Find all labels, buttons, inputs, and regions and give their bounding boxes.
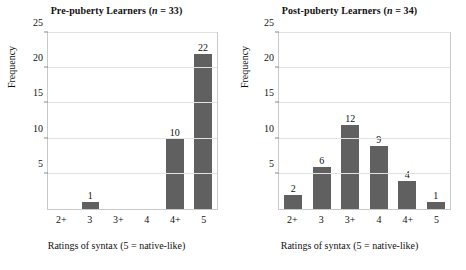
gridline — [279, 32, 450, 33]
gridline — [48, 173, 217, 174]
x-axis-ticks-left: 2+33+44+5 — [47, 214, 218, 225]
x-tick-label-4: 4 — [133, 214, 162, 225]
x-tick-label-5: 5 — [190, 214, 219, 225]
gridline — [48, 32, 217, 33]
bar-4[interactable] — [370, 146, 388, 209]
y-tick-mark — [275, 32, 279, 33]
bar-value-label: 22 — [189, 42, 217, 53]
bar-slot-2+[interactable]: 2 — [279, 33, 308, 209]
y-tick-label-20: 20 — [264, 52, 279, 63]
plot-area-right: 2612941 510152025 — [278, 32, 451, 210]
x-tick-label-4: 4 — [364, 214, 393, 225]
y-tick-label-20: 20 — [33, 52, 48, 63]
two-panel-bar-chart-figure: Pre-puberty Learners (n = 33) Frequency … — [0, 0, 466, 270]
gridline — [279, 138, 450, 139]
y-tick-mark — [44, 67, 48, 68]
bar-slot-3[interactable]: 6 — [308, 33, 337, 209]
bar-5[interactable] — [194, 54, 211, 209]
chart-panel-pre-puberty: Pre-puberty Learners (n = 33) Frequency … — [0, 0, 233, 270]
x-tick-label-4+: 4+ — [161, 214, 190, 225]
bar-3[interactable] — [82, 202, 99, 209]
bar-value-label: 12 — [336, 113, 365, 124]
bar-slot-4[interactable]: 9 — [365, 33, 394, 209]
y-tick-label-25: 25 — [264, 17, 279, 28]
gridline — [279, 173, 450, 174]
gridline — [48, 102, 217, 103]
bar-slot-4[interactable] — [133, 33, 161, 209]
panel-title-prefix: Post-puberty Learners ( — [282, 5, 387, 16]
y-tick-label-5: 5 — [269, 157, 279, 168]
y-tick-mark — [44, 137, 48, 138]
bar-value-label: 10 — [161, 127, 189, 138]
bar-slot-4+[interactable]: 10 — [161, 33, 189, 209]
y-tick-mark — [44, 172, 48, 173]
bar-slot-3+[interactable] — [104, 33, 132, 209]
bar-value-label: 4 — [393, 169, 422, 180]
bar-group-right: 2612941 — [279, 33, 450, 209]
y-axis-label-left: Frequency — [6, 22, 17, 112]
x-tick-label-2+: 2+ — [47, 214, 76, 225]
bar-value-label: 6 — [308, 155, 337, 166]
panel-title-suffix: = 33) — [158, 5, 183, 16]
gridline — [48, 67, 217, 68]
chart-panel-post-puberty: Post-puberty Learners (n = 34) Frequency… — [233, 0, 466, 270]
x-tick-label-5: 5 — [422, 214, 451, 225]
bar-slot-3+[interactable]: 12 — [336, 33, 365, 209]
y-tick-mark — [275, 172, 279, 173]
x-tick-label-3: 3 — [307, 214, 336, 225]
x-tick-label-3: 3 — [76, 214, 105, 225]
bar-5[interactable] — [427, 202, 445, 209]
x-axis-ticks-right: 2+33+44+5 — [278, 214, 451, 225]
y-tick-label-10: 10 — [33, 122, 48, 133]
gridline — [279, 67, 450, 68]
y-tick-mark — [275, 102, 279, 103]
x-axis-label-right: Ratings of syntax (5 = native-like) — [233, 240, 466, 251]
panel-title-suffix: = 34) — [393, 5, 418, 16]
bar-4+[interactable] — [398, 181, 416, 209]
x-tick-label-3+: 3+ — [104, 214, 133, 225]
bar-slot-5[interactable]: 1 — [422, 33, 451, 209]
bar-slot-2+[interactable] — [48, 33, 76, 209]
x-axis-label-left: Ratings of syntax (5 = native-like) — [0, 240, 233, 251]
panel-title-pre-puberty: Pre-puberty Learners (n = 33) — [0, 5, 233, 16]
bar-value-label: 2 — [279, 183, 308, 194]
y-tick-mark — [44, 32, 48, 33]
gridline — [279, 102, 450, 103]
gridline — [48, 138, 217, 139]
bar-value-label: 9 — [365, 134, 394, 145]
y-tick-label-15: 15 — [264, 87, 279, 98]
x-tick-label-2+: 2+ — [278, 214, 307, 225]
bar-value-label: 1 — [76, 190, 104, 201]
y-tick-label-15: 15 — [33, 87, 48, 98]
bar-group-left: 11022 — [48, 33, 217, 209]
x-tick-label-4+: 4+ — [393, 214, 422, 225]
bar-value-label: 1 — [422, 190, 451, 201]
panel-title-prefix: Pre-puberty Learners ( — [51, 5, 152, 16]
y-axis-label-right: Frequency — [239, 22, 250, 112]
bar-slot-4+[interactable]: 4 — [393, 33, 422, 209]
plot-area-left: 11022 510152025 — [47, 32, 218, 210]
y-tick-label-25: 25 — [33, 17, 48, 28]
y-tick-label-10: 10 — [264, 122, 279, 133]
y-tick-mark — [275, 67, 279, 68]
y-tick-label-5: 5 — [38, 157, 48, 168]
bar-slot-5[interactable]: 22 — [189, 33, 217, 209]
x-tick-label-3+: 3+ — [336, 214, 365, 225]
y-tick-mark — [275, 137, 279, 138]
panel-title-post-puberty: Post-puberty Learners (n = 34) — [233, 5, 466, 16]
bar-slot-3[interactable]: 1 — [76, 33, 104, 209]
y-tick-mark — [44, 102, 48, 103]
bar-2+[interactable] — [284, 195, 302, 209]
